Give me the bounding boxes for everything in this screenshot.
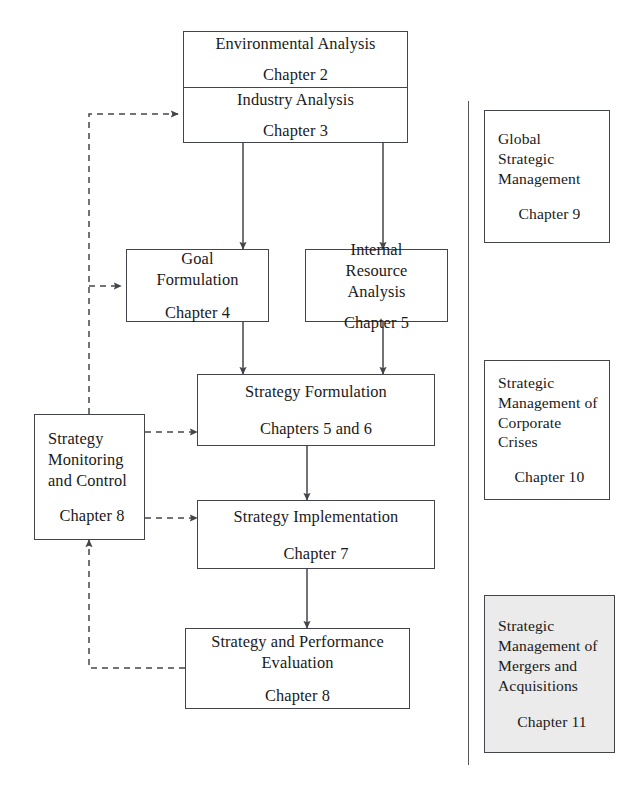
node-chapter: Chapter 2	[196, 64, 395, 85]
node-chapter: Chapter 8	[198, 685, 397, 706]
node-chapter: Chapter 7	[210, 543, 422, 564]
node-title: Strategic Management of Mergers and Acqu…	[498, 616, 606, 696]
node-chapter: Chapter 9	[498, 204, 601, 224]
feedback-evaluation-to-monitoring	[89, 540, 185, 668]
node-chapter: Chapter 4	[139, 302, 256, 323]
side-panel-divider	[468, 101, 469, 765]
node-industry-analysis: Industry Analysis Chapter 3	[184, 88, 407, 143]
node-internal-resource-analysis[interactable]: Internal Resource Analysis Chapter 5	[305, 249, 448, 322]
node-title: Global Strategic Management	[498, 129, 601, 189]
node-chapter: Chapters 5 and 6	[210, 418, 422, 439]
node-global-strategic-management[interactable]: Global Strategic Management Chapter 9	[484, 110, 610, 243]
node-chapter: Chapter 10	[498, 467, 601, 487]
node-environmental-industry-analysis[interactable]: Environmental Analysis Chapter 2 Industr…	[183, 31, 408, 143]
node-chapter: Chapter 5	[318, 312, 435, 333]
node-chapter: Chapter 3	[196, 120, 395, 141]
node-title: Industry Analysis	[196, 89, 395, 110]
node-title: Strategy and Performance Evaluation	[198, 631, 397, 673]
node-goal-formulation[interactable]: Goal Formulation Chapter 4	[126, 249, 269, 322]
node-strategic-management-mergers-acquisitions[interactable]: Strategic Management of Mergers and Acqu…	[484, 595, 615, 753]
node-strategy-implementation[interactable]: Strategy Implementation Chapter 7	[197, 500, 435, 569]
node-strategic-management-corporate-crises[interactable]: Strategic Management of Corporate Crises…	[484, 360, 610, 500]
node-title: Environmental Analysis	[196, 33, 395, 54]
node-chapter: Chapter 8	[48, 505, 136, 526]
node-title: Internal Resource Analysis	[318, 239, 435, 302]
node-strategy-monitoring-and-control[interactable]: Strategy Monitoring and Control Chapter …	[34, 414, 145, 540]
node-chapter: Chapter 11	[498, 712, 606, 732]
node-strategy-and-performance-evaluation[interactable]: Strategy and Performance Evaluation Chap…	[185, 628, 410, 709]
node-title: Strategy Formulation	[210, 381, 422, 402]
node-strategy-formulation[interactable]: Strategy Formulation Chapters 5 and 6	[197, 374, 435, 446]
node-environmental-analysis: Environmental Analysis Chapter 2	[184, 32, 407, 88]
diagram-canvas: Environmental Analysis Chapter 2 Industr…	[0, 0, 643, 788]
node-title: Strategy Monitoring and Control	[48, 428, 136, 491]
node-title: Strategic Management of Corporate Crises	[498, 373, 601, 453]
node-title: Strategy Implementation	[210, 506, 422, 527]
node-title: Goal Formulation	[139, 248, 256, 290]
